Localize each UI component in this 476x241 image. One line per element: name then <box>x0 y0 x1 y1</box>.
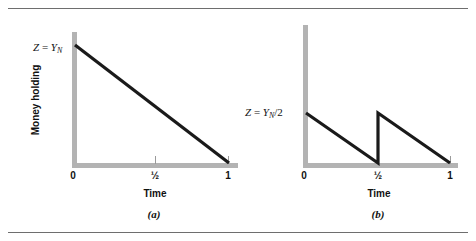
panel-a-money-holding-line <box>75 45 229 163</box>
panel-a-annotation-equals: = <box>39 41 51 53</box>
panel-b-caption: (b) <box>358 208 398 220</box>
panel-b-money-holding-line <box>306 113 450 163</box>
panel-a-series-annotation: Z = YN <box>33 41 62 57</box>
panel-a: 0 ½ 1 Time Money holding Z = YN (a) <box>0 0 238 241</box>
panel-b-series-annotation: Z = YN/2 <box>245 106 283 122</box>
panel-b-annotation-suffix: /2 <box>274 106 283 118</box>
panel-a-xticklabel-half: ½ <box>142 170 168 182</box>
panel-a-caption: (a) <box>134 208 174 220</box>
panel-a-x-axis-title: Time <box>115 188 195 200</box>
panel-b-annotation-equals: = <box>251 106 263 118</box>
panel-b-x-axis-title: Time <box>339 188 419 200</box>
panel-b-xticklabel-0: 0 <box>291 170 317 182</box>
panel-a-xticklabel-0: 0 <box>60 170 86 182</box>
panel-b-xticklabel-half: ½ <box>365 170 391 182</box>
panel-b-xticklabel-1: 1 <box>437 170 463 182</box>
panel-a-y-axis-title: Money holding <box>30 60 42 140</box>
figure-container: 0 ½ 1 Time Money holding Z = YN (a) 0 ½ … <box>0 0 476 241</box>
panel-a-annotation-subscript: N <box>57 46 62 55</box>
panel-b: 0 ½ 1 Time Z = YN/2 (b) <box>238 0 476 241</box>
